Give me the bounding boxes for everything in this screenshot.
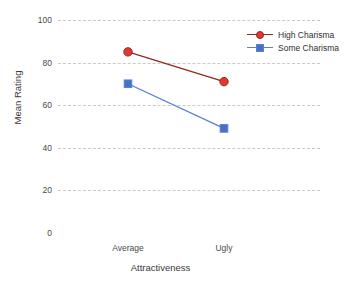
data-point-high-charisma-ugly[interactable] [220,77,228,85]
legend-marker-circle-icon [247,28,273,41]
series-line-some-charisma [128,84,224,129]
legend-item-some-charisma[interactable]: Some Charisma [247,41,339,54]
data-point-some-charisma-average[interactable] [124,80,132,88]
series-line-high-charisma [128,52,224,82]
legend-label-some-charisma: Some Charisma [278,43,339,53]
data-point-high-charisma-average[interactable] [124,48,132,56]
line-chart: Mean Rating Attractiveness 100806040200 … [0,0,349,287]
legend-item-high-charisma[interactable]: High Charisma [247,28,339,41]
legend-label-high-charisma: High Charisma [278,30,334,40]
legend-marker-square-icon [247,41,273,54]
legend: High Charisma Some Charisma [247,28,339,54]
data-point-some-charisma-ugly[interactable] [220,125,228,133]
